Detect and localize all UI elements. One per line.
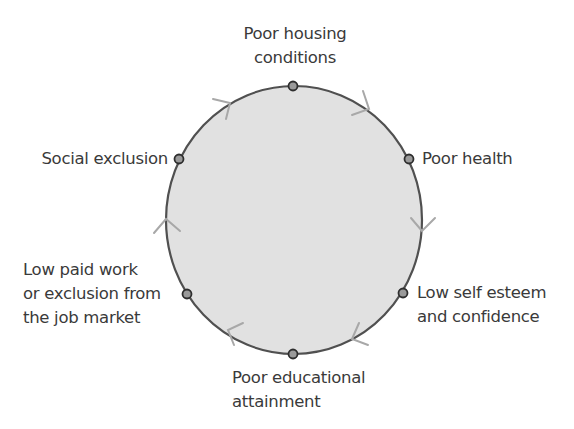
label-line: the job market [23,306,161,330]
node-dot-low-paid-work [183,290,192,299]
node-dot-social-exclusion [175,155,184,164]
label-line: Poor housing [230,22,360,46]
label-line: conditions [230,46,360,70]
label-line: Poor health [422,147,513,171]
label-line: or exclusion from [23,282,161,306]
label-line: Low paid work [23,258,161,282]
node-dot-poor-education [289,350,298,359]
label-poor-education: Poor educational attainment [232,366,365,414]
label-low-self-esteem: Low self esteem and confidence [417,281,546,329]
node-dot-poor-health [405,155,414,164]
label-poor-health: Poor health [422,147,513,171]
label-poor-housing: Poor housing conditions [230,22,360,70]
label-social-exclusion: Social exclusion [41,147,168,171]
cycle-circle [166,86,422,354]
label-line: attainment [232,390,365,414]
node-dot-low-self-esteem [399,289,408,298]
label-line: Poor educational [232,366,365,390]
label-line: and confidence [417,305,546,329]
node-dot-poor-housing [289,82,298,91]
label-line: Social exclusion [41,147,168,171]
label-line: Low self esteem [417,281,546,305]
label-low-paid-work: Low paid work or exclusion from the job … [23,258,161,330]
